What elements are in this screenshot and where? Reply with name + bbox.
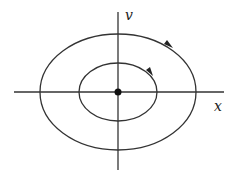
vertical-axis-label: v [125, 7, 133, 23]
outer-orbit-arrow-icon [164, 40, 173, 48]
horizontal-axis-label: x [214, 98, 222, 114]
phase-portrait-diagram: v x [0, 0, 238, 183]
origin-equilibrium-point [115, 89, 122, 96]
